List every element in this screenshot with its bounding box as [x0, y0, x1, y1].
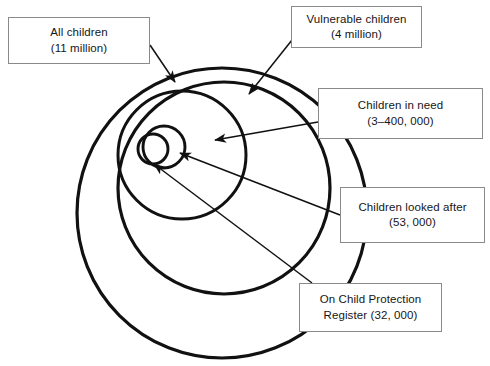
arrow-children-in-need — [215, 122, 318, 140]
children-looked-after-count: (53, 000) — [389, 215, 436, 230]
circle-vulnerable-children — [118, 82, 330, 294]
child-protection-register-count: Register (32, 000) — [324, 308, 418, 323]
arrow-vulnerable-children — [249, 40, 292, 94]
label-box-children-in-need: Children in need (3–400, 000) — [318, 88, 483, 139]
arrow-all-children — [150, 45, 175, 82]
vulnerable-children-title: Vulnerable children — [307, 12, 407, 27]
children-in-need-count: (3–400, 000) — [367, 114, 433, 129]
label-box-vulnerable-children: Vulnerable children (4 million) — [291, 6, 422, 48]
children-looked-after-title: Children looked after — [358, 200, 466, 215]
arrow-child-protection-register — [154, 164, 312, 283]
vulnerable-children-count: (4 million) — [331, 27, 382, 42]
label-box-child-protection-register: On Child Protection Register (32, 000) — [299, 283, 442, 332]
label-box-children-looked-after: Children looked after (53, 000) — [340, 187, 485, 243]
children-in-need-title: Children in need — [358, 98, 443, 113]
all-children-count: (11 million) — [51, 41, 108, 56]
arrow-children-looked-after — [180, 153, 340, 215]
all-children-title: All children — [50, 25, 107, 40]
circle-children-looked-after — [143, 126, 185, 168]
diagram-canvas: All children (11 million) Vulnerable chi… — [0, 0, 490, 366]
child-protection-register-title: On Child Protection — [320, 292, 422, 307]
label-box-all-children: All children (11 million) — [8, 17, 150, 64]
